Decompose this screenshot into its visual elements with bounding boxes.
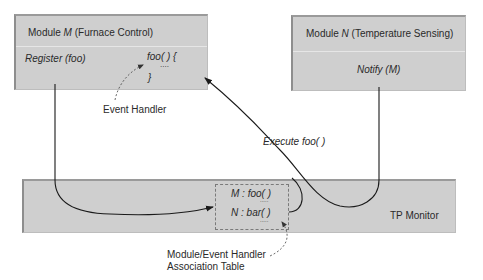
connector-arrows xyxy=(0,0,483,280)
event-handler-pointer xyxy=(115,65,143,100)
table-loop xyxy=(289,178,302,212)
register-arrow xyxy=(55,84,213,215)
table-caption-pointer xyxy=(270,222,287,256)
notify-arrow xyxy=(205,78,379,207)
